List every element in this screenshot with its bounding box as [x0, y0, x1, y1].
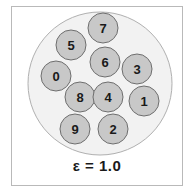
node-circle-6[interactable]: [90, 47, 120, 77]
node-circle-4[interactable]: [93, 82, 123, 112]
node-circle-2[interactable]: [98, 114, 128, 144]
node-circle-8[interactable]: [65, 82, 95, 112]
node-circle-0[interactable]: [41, 61, 71, 91]
node-circle-3[interactable]: [122, 54, 152, 84]
node-circle-9[interactable]: [60, 114, 90, 144]
figure-root: 7560384192 ε = 1.0: [0, 0, 196, 195]
epsilon-caption: ε = 1.0: [11, 157, 183, 174]
node-circle-5[interactable]: [56, 30, 86, 60]
node-circle-7[interactable]: [88, 13, 118, 43]
node-circle-1[interactable]: [129, 86, 159, 116]
